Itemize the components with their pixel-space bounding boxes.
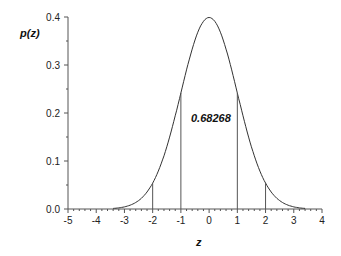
x-tick-label: -4 — [92, 215, 101, 226]
area-annotation: 0.68268 — [191, 112, 232, 124]
y-tick-label: 0.3 — [46, 60, 60, 71]
x-tick-label: -2 — [148, 215, 157, 226]
y-tick-label: 0.4 — [46, 12, 60, 23]
y-tick-label: 0.1 — [46, 156, 60, 167]
x-tick-label: 0 — [206, 215, 212, 226]
x-tick-label: -3 — [120, 215, 129, 226]
x-axis-label: z — [195, 236, 202, 248]
y-tick-label: 0.2 — [46, 108, 60, 119]
x-tick-label: 1 — [235, 215, 241, 226]
normal-distribution-chart: -5-4-3-2-1012340.00.10.20.30.4 p(z) z 0.… — [0, 0, 341, 256]
x-tick-label: -5 — [64, 215, 73, 226]
x-tick-label: 4 — [319, 215, 325, 226]
x-tick-label: 3 — [291, 215, 297, 226]
y-axis-label: p(z) — [19, 27, 40, 39]
x-tick-label: -1 — [176, 215, 185, 226]
y-tick-label: 0.0 — [46, 204, 60, 215]
x-tick-label: 2 — [263, 215, 269, 226]
